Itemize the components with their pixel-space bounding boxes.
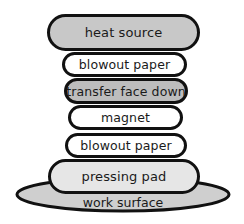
layer-transfer-face-down: transfer face down — [64, 78, 188, 104]
layer-transfer-face-down-label: transfer face down — [66, 84, 185, 99]
layer-blowout-paper-top: blowout paper — [62, 52, 187, 77]
work-surface-label: work surface — [15, 195, 231, 210]
layer-pressing-pad-label: pressing pad — [82, 169, 167, 184]
layer-magnet: magnet — [68, 105, 183, 130]
layer-pressing-pad: pressing pad — [48, 159, 200, 194]
layer-blowout-paper-top-label: blowout paper — [79, 57, 170, 72]
layer-heat-source-label: heat source — [85, 25, 163, 40]
layer-magnet-label: magnet — [101, 110, 150, 125]
layer-heat-source: heat source — [47, 14, 200, 51]
layer-blowout-paper-bottom-label: blowout paper — [80, 138, 171, 153]
layer-blowout-paper-bottom: blowout paper — [65, 133, 187, 158]
